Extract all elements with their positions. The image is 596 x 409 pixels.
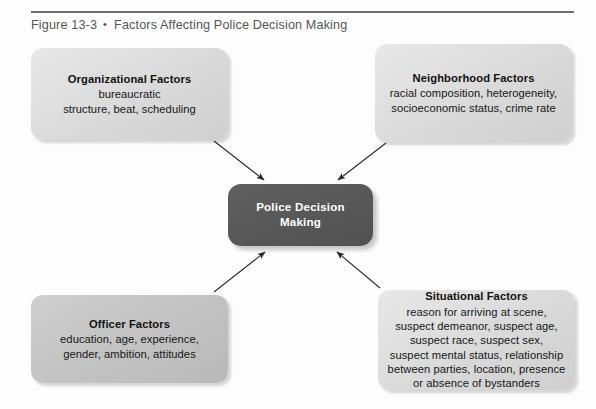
node-neighborhood-factors[interactable]: Neighborhood Factors racial composition,…	[375, 44, 572, 142]
node-officer-factors[interactable]: Officer Factors education, age, experien…	[31, 295, 228, 383]
node-title: Organizational Factors	[37, 72, 222, 86]
arrow-officer-to-center	[214, 252, 265, 292]
node-title: Officer Factors	[37, 317, 222, 331]
figure-number: Figure 13-3	[31, 18, 97, 32]
arrow-situational-to-center	[337, 252, 380, 288]
node-content: Neighborhood Factors racial composition,…	[375, 71, 572, 115]
figure-caption: Figure 13-3•Factors Affecting Police Dec…	[31, 18, 347, 32]
node-content: Organizational Factors bureaucratic stru…	[31, 72, 228, 116]
node-title: Police Decision Making	[234, 200, 367, 230]
node-content: Officer Factors education, age, experien…	[31, 317, 228, 361]
node-title: Situational Factors	[384, 289, 569, 303]
arrow-neighborhood-to-center	[338, 143, 386, 180]
node-body: racial composition, heterogeneity, socio…	[381, 86, 566, 115]
node-title: Neighborhood Factors	[381, 71, 566, 85]
figure-container: Figure 13-3•Factors Affecting Police Dec…	[0, 0, 596, 409]
bullet-separator-icon: •	[103, 18, 107, 30]
figure-title-text: Factors Affecting Police Decision Making	[114, 18, 347, 32]
node-body: bureaucratic structure, beat, scheduling	[37, 87, 222, 116]
header-divider	[31, 11, 574, 13]
node-body: reason for arriving at scene, suspect de…	[384, 305, 569, 391]
node-police-decision-making[interactable]: Police Decision Making	[228, 184, 373, 246]
node-body: education, age, experience, gender, ambi…	[37, 332, 222, 361]
arrow-organizational-to-center	[214, 141, 264, 180]
node-situational-factors[interactable]: Situational Factors reason for arriving …	[378, 290, 575, 390]
node-content: Situational Factors reason for arriving …	[378, 289, 575, 390]
node-content: Police Decision Making	[228, 200, 373, 230]
node-organizational-factors[interactable]: Organizational Factors bureaucratic stru…	[31, 48, 228, 140]
